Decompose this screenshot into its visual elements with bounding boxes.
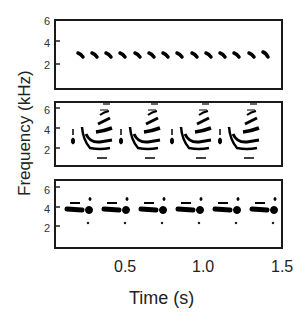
spectrogram-graphics <box>0 0 307 321</box>
